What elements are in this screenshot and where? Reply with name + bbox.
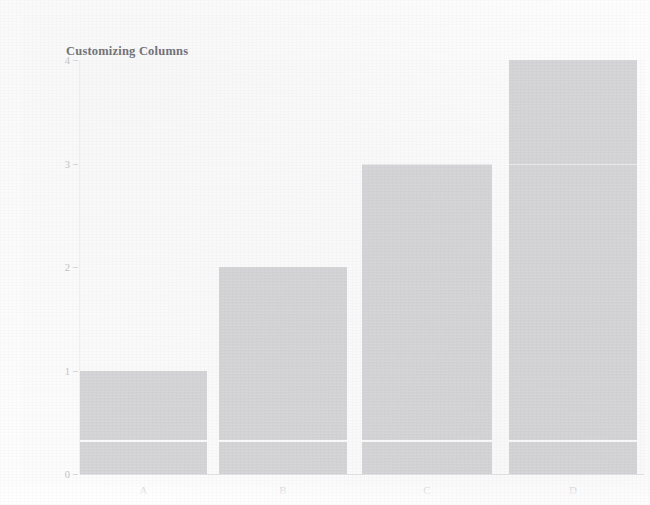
y-axis-tick-label: 0: [46, 469, 70, 480]
x-axis-line: [80, 474, 644, 475]
bar-b: [219, 267, 347, 474]
y-axis-tick-mark: [73, 371, 78, 372]
bar-c: [362, 164, 492, 475]
y-axis-tick-label: 1: [46, 365, 70, 376]
y-axis-tick-mark: [73, 474, 78, 475]
y-axis-tick-mark: [73, 60, 78, 61]
chart-page: Customizing Columns 01234 ABCD: [0, 0, 650, 505]
bar-a: [80, 371, 207, 475]
gridline-y: [80, 440, 644, 442]
chart-title: Customizing Columns: [66, 44, 188, 59]
y-axis-line: [79, 60, 80, 474]
page-bottom-fade: [0, 479, 650, 505]
y-axis-tick-label: 2: [46, 262, 70, 273]
y-axis-tick-mark: [73, 267, 78, 268]
bar-d: [509, 60, 637, 474]
chart-figure: Customizing Columns 01234 ABCD: [22, 14, 628, 486]
gridline-y: [80, 164, 644, 165]
y-axis-tick-label: 3: [46, 158, 70, 169]
y-axis-tick-mark: [73, 164, 78, 165]
